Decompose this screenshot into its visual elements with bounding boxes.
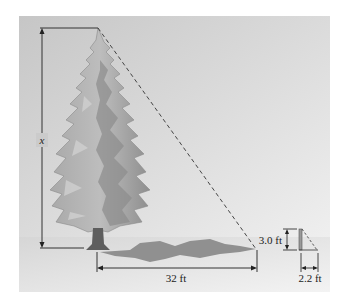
diagram-canvas: x 32 ft 3.0 ft 2.2 ft [0,0,343,304]
height-label: x [39,134,45,146]
tree-height-diagram: x 32 ft 3.0 ft 2.2 ft [0,0,343,304]
stick-height-label: 3.0 ft [259,234,282,246]
shadow-length-label: 32 ft [166,272,186,284]
stick [299,229,302,250]
stick-shadow-label: 2.2 ft [298,272,321,284]
